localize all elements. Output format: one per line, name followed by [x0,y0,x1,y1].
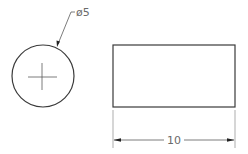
diameter-leader: ø5 [57,6,90,47]
rectangle-outline [113,45,235,107]
arrowhead-left-icon [114,138,122,141]
leader-line [58,12,75,44]
circle-outline [12,45,74,107]
technical-drawing: ø5 10 [0,0,248,154]
length-label: 10 [167,134,181,147]
end-view [12,45,74,107]
length-dimension: 10 [113,110,235,148]
side-view [113,45,235,107]
arrowhead-right-icon [227,138,235,141]
diameter-label: ø5 [76,6,90,19]
leader-arrowhead-icon [57,41,61,48]
